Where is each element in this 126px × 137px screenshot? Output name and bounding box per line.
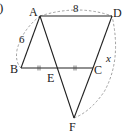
point-label-B: B xyxy=(10,62,18,76)
geometry-figure: ) A D B C E F 8 6 x xyxy=(0,0,126,137)
point-label-E: E xyxy=(47,71,54,85)
length-label-x: x xyxy=(105,52,111,64)
segment-AF xyxy=(40,16,74,118)
length-label-AD: 8 xyxy=(73,2,79,14)
dashed-circle-arc xyxy=(40,10,116,118)
point-label-F: F xyxy=(69,120,76,134)
point-label-D: D xyxy=(113,6,122,20)
point-label-A: A xyxy=(29,5,38,19)
problem-mark: ) xyxy=(0,0,3,15)
point-label-C: C xyxy=(94,63,102,77)
length-label-AB: 6 xyxy=(19,33,25,45)
segment-CF xyxy=(74,68,93,118)
